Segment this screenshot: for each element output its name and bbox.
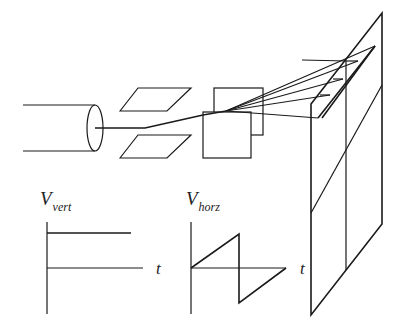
- t-axis-label-horz: t: [300, 259, 306, 278]
- v-horz-label: Vhorz: [186, 188, 220, 214]
- vertical-voltage-graph: [47, 222, 143, 314]
- horizontal-voltage-graph: [191, 222, 286, 314]
- crt-diagram: Vvert Vhorz t t: [0, 0, 407, 325]
- t-axis-label-vert: t: [156, 259, 162, 278]
- v-vert-label: Vvert: [40, 188, 72, 214]
- vertical-deflection-plates: [120, 88, 191, 158]
- scan-pattern: [226, 46, 375, 118]
- electron-gun: [23, 105, 103, 151]
